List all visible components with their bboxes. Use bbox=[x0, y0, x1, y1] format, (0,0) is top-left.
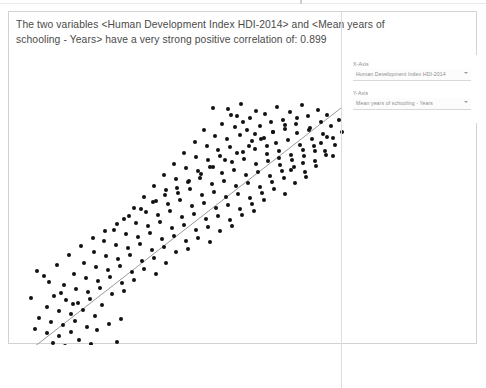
scatter-point bbox=[238, 207, 242, 211]
scatter-point bbox=[162, 173, 166, 177]
scatter-point bbox=[235, 114, 239, 118]
scatter-point bbox=[283, 192, 287, 196]
axis-selector-panel: X-Axis Human Development Index HDI-2014 … bbox=[341, 55, 478, 123]
scatter-point bbox=[122, 217, 126, 221]
scatter-point bbox=[110, 292, 114, 296]
scatter-point bbox=[74, 287, 78, 291]
scatter-point bbox=[236, 192, 240, 196]
scatter-point bbox=[241, 120, 245, 124]
scatter-point bbox=[240, 213, 244, 217]
scatter-point bbox=[146, 224, 150, 228]
scatter-point bbox=[120, 281, 124, 285]
scatter-point bbox=[93, 314, 97, 318]
scatter-point bbox=[193, 140, 197, 144]
scatter-point bbox=[128, 253, 132, 257]
scatter-point bbox=[86, 290, 90, 294]
scatter-point bbox=[61, 323, 65, 327]
x-axis-label: X-Axis bbox=[353, 61, 471, 68]
scatter-point bbox=[329, 124, 333, 128]
scatter-point bbox=[331, 136, 335, 140]
scatter-point bbox=[126, 246, 130, 250]
scatter-point bbox=[186, 247, 190, 251]
scatter-point bbox=[100, 303, 104, 307]
scatter-point bbox=[33, 327, 37, 331]
scatter-point bbox=[102, 239, 106, 243]
scatter-point bbox=[138, 242, 142, 246]
scatter-point bbox=[282, 176, 286, 180]
scatter-point bbox=[119, 317, 123, 321]
scatter-point bbox=[241, 150, 245, 154]
scatter-point bbox=[230, 160, 234, 164]
scatter-point bbox=[127, 214, 131, 218]
scatter-point bbox=[164, 188, 168, 192]
scatter-point bbox=[49, 320, 53, 324]
scatter-point bbox=[76, 301, 80, 305]
scatter-point bbox=[112, 228, 116, 232]
scatter-point bbox=[302, 154, 306, 158]
chevron-down-icon[interactable] bbox=[464, 101, 468, 103]
scatter-point bbox=[92, 250, 96, 254]
top-tick-mark bbox=[300, 0, 302, 4]
scatter-point bbox=[265, 152, 269, 156]
scatter-point bbox=[258, 124, 262, 128]
scatter-point bbox=[280, 169, 284, 173]
scatter-point bbox=[208, 240, 212, 244]
scatter-point bbox=[151, 200, 155, 204]
scatter-point bbox=[263, 112, 267, 116]
scatter-point bbox=[45, 305, 49, 309]
scatter-point bbox=[152, 256, 156, 260]
scatter-point bbox=[63, 344, 67, 345]
scatter-point bbox=[223, 158, 227, 162]
y-axis-control-group: Y-Axis Mean years of schooling - Years bbox=[353, 90, 471, 110]
scatter-point bbox=[269, 120, 273, 124]
scatter-point bbox=[244, 173, 248, 177]
scatter-point bbox=[196, 169, 200, 173]
scatter-point bbox=[212, 190, 216, 194]
scatter-point bbox=[316, 108, 320, 112]
scatter-point bbox=[115, 340, 119, 344]
scatter-point bbox=[172, 234, 176, 238]
scatter-point bbox=[295, 116, 299, 120]
scatter-point bbox=[226, 203, 230, 207]
scatter-point bbox=[286, 138, 290, 142]
y-axis-selected-value: Mean years of schooling - Years bbox=[356, 100, 433, 106]
scatter-point bbox=[166, 202, 170, 206]
scatter-point bbox=[175, 186, 179, 190]
scatter-point bbox=[176, 191, 180, 195]
scatter-point bbox=[300, 103, 304, 107]
scatter-point bbox=[250, 139, 254, 143]
y-axis-label: Y-Axis bbox=[353, 90, 471, 97]
scatter-point bbox=[222, 179, 226, 183]
scatter-point bbox=[323, 149, 327, 153]
scatter-point bbox=[254, 162, 258, 166]
y-axis-dropdown[interactable]: Mean years of schooling - Years bbox=[353, 98, 471, 110]
scatter-point bbox=[140, 259, 144, 263]
scatter-point bbox=[233, 125, 237, 129]
chevron-down-icon[interactable] bbox=[464, 72, 468, 74]
scatter-point bbox=[29, 296, 33, 300]
scatter-point bbox=[225, 137, 229, 141]
scatter-point bbox=[69, 312, 73, 316]
scatter-point bbox=[52, 294, 56, 298]
scatter-point bbox=[184, 239, 188, 243]
scatter-point bbox=[304, 175, 308, 179]
scatter-point bbox=[216, 214, 220, 218]
scatter-point bbox=[211, 165, 215, 169]
scatter-point bbox=[235, 151, 239, 155]
x-axis-dropdown[interactable]: Human Development Index HDI-2014 bbox=[353, 69, 471, 81]
scatter-point bbox=[218, 154, 222, 158]
scatter-point bbox=[205, 144, 209, 148]
scatter-point bbox=[106, 268, 110, 272]
scatter-point bbox=[82, 261, 86, 265]
scatter-point bbox=[266, 159, 270, 163]
scatter-point bbox=[220, 171, 224, 175]
scatter-point bbox=[245, 128, 249, 132]
scatter-point bbox=[91, 236, 95, 240]
scatter-point bbox=[174, 250, 178, 254]
scatter-point bbox=[96, 279, 100, 283]
scatter-point bbox=[198, 176, 202, 180]
scatter-point bbox=[42, 274, 46, 278]
scatter-point bbox=[67, 253, 71, 257]
scatter-point bbox=[160, 237, 164, 241]
scatter-point bbox=[84, 276, 88, 280]
